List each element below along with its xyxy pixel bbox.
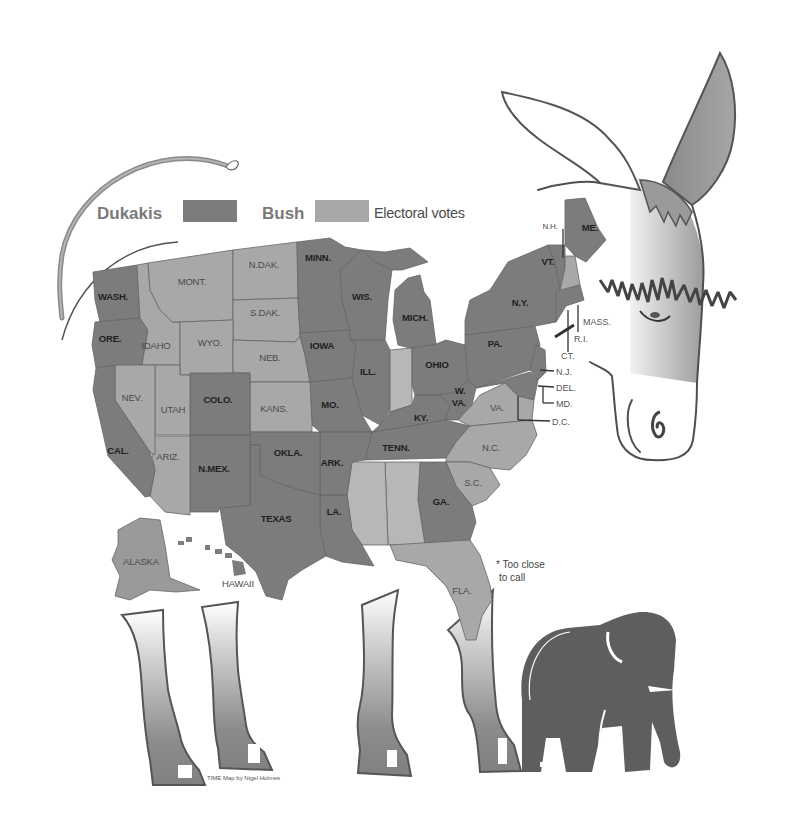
- label-mich: MICH.: [402, 312, 428, 323]
- callout-mass: MASS.: [583, 317, 611, 327]
- label-tenn: TENN.: [382, 442, 410, 453]
- label-nc: N.C.: [482, 442, 500, 453]
- footnote-line1: * Too close: [496, 559, 545, 570]
- label-ariz: ARIZ.: [156, 451, 179, 462]
- legend-electoral-votes-label: Electoral votes: [374, 205, 465, 221]
- label-mont: MONT.: [178, 276, 207, 287]
- election-map-illustration: Dukakis Bush Electoral votes: [0, 0, 787, 828]
- footnote-line2: to call: [499, 572, 525, 583]
- label-nh: N.H.: [542, 222, 557, 231]
- label-ky: KY.: [414, 412, 428, 423]
- label-sc: S.C.: [464, 477, 482, 488]
- label-la: LA.: [327, 506, 342, 517]
- label-nmex: N.MEX.: [198, 463, 230, 474]
- donkey-leg-2: [202, 602, 272, 770]
- state-fla: [390, 540, 492, 640]
- legend-bush-swatch: [315, 200, 369, 222]
- label-alaska: ALASKA: [123, 556, 160, 567]
- label-wva-line2: VA.: [452, 397, 467, 408]
- label-pa: PA.: [488, 338, 503, 349]
- label-wis: WIS.: [352, 291, 372, 302]
- label-kans: KANS.: [260, 403, 288, 414]
- donkey-right-ear: [663, 53, 735, 205]
- callout-md: MD.: [556, 399, 573, 409]
- label-neb: NEB.: [259, 352, 280, 363]
- callout-nj: N.J.: [556, 367, 572, 377]
- donkey-left-ear: [502, 92, 640, 190]
- callout-del: DEL.: [556, 383, 576, 393]
- label-mo: MO.: [321, 399, 338, 410]
- state-mass-ri-ct: [556, 285, 584, 322]
- label-hawaii: HAWAII: [222, 578, 254, 589]
- state-ind: [390, 348, 412, 412]
- label-minn: MINN.: [305, 252, 331, 263]
- legend-dukakis-swatch: [183, 200, 237, 222]
- label-ga: GA.: [433, 496, 449, 507]
- label-okla: OKLA.: [274, 447, 303, 458]
- legend: Dukakis Bush Electoral votes: [97, 200, 465, 223]
- elephant-illustration: [521, 612, 680, 772]
- label-me: ME.: [582, 222, 598, 233]
- label-wyo: WYO.: [198, 337, 223, 348]
- state-ariz: [150, 436, 190, 515]
- label-iowa: IOWA: [310, 340, 335, 351]
- donkey-leg-3: [358, 590, 411, 776]
- label-vt: VT.: [541, 256, 554, 267]
- state-utah: [155, 365, 190, 435]
- state-iowa: [300, 330, 356, 382]
- label-va: VA.: [490, 402, 504, 413]
- legend-bush-label: Bush: [262, 204, 305, 223]
- callout-dc: D.C.: [552, 417, 570, 427]
- state-sdak: [233, 298, 300, 342]
- label-ohio: OHIO: [425, 359, 448, 370]
- label-texas: TEXAS: [261, 513, 292, 524]
- donkey-leg-1: [122, 610, 205, 785]
- map-credit: TIME Map by Nigel Holmes: [207, 775, 280, 781]
- state-ndak: [233, 242, 298, 300]
- label-utah: UTAH: [161, 404, 186, 415]
- label-wva-line1: W.: [455, 385, 466, 396]
- us-map: WASH. ORE. IDAHO MONT. N.DAK. S.DAK. WYO…: [92, 198, 611, 640]
- label-cal: CAL.: [107, 445, 128, 456]
- label-idaho: IDAHO: [141, 340, 170, 351]
- label-ill: ILL.: [360, 366, 376, 377]
- callout-ct: CT.: [561, 351, 575, 361]
- legend-dukakis-label: Dukakis: [97, 204, 162, 223]
- label-ny: N.Y.: [512, 297, 529, 308]
- label-fla: FLA.: [452, 585, 471, 596]
- label-wash: WASH.: [98, 291, 128, 302]
- label-ark: ARK.: [321, 457, 343, 468]
- callout-ri: R.I.: [574, 334, 588, 344]
- label-nev: NEV.: [122, 392, 143, 403]
- label-colo: COLO.: [203, 394, 232, 405]
- label-ore: ORE.: [99, 333, 121, 344]
- label-ndak: N.DAK.: [249, 259, 279, 270]
- label-sdak: S.DAK.: [250, 307, 280, 318]
